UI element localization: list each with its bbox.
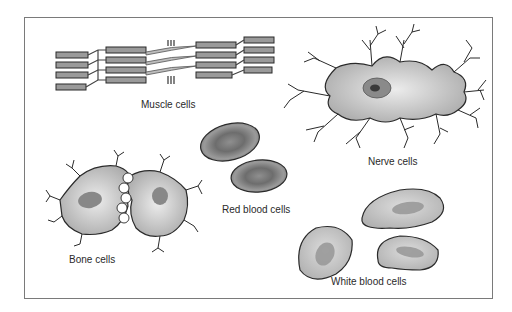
white-blood-cells xyxy=(299,189,444,279)
label-red-blood-cells: Red blood cells xyxy=(222,204,290,215)
label-white-blood-cells: White blood cells xyxy=(331,276,407,287)
red-blood-cells xyxy=(196,117,288,195)
label-muscle-cells: Muscle cells xyxy=(141,99,195,110)
cell-types-illustration xyxy=(0,0,512,312)
muscle-cells xyxy=(56,37,274,90)
nerve-cell xyxy=(284,24,486,148)
label-bone-cells: Bone cells xyxy=(69,254,115,265)
label-nerve-cells: Nerve cells xyxy=(368,156,417,167)
bone-cells xyxy=(46,150,202,252)
